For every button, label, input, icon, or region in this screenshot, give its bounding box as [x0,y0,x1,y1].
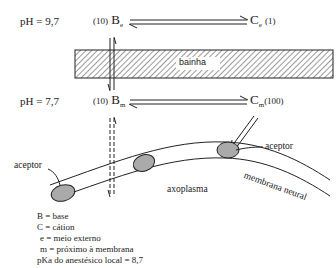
acceptor-left-label: aceptor [14,160,42,170]
cation-external-conc: (1) [265,16,276,26]
cation-membrane: Cm(100) [250,92,284,109]
base-membrane: (10) Bm [93,92,125,109]
base-external-symbol: B [111,12,120,27]
legend-item: m = próximo à membrana [37,244,143,255]
ph-membrane: pH = 7,7 [20,95,59,107]
cation-external-symbol: C [250,12,259,27]
axoplasm-label: axoplasma [167,184,208,194]
sheath-label: bainha [179,57,206,67]
base-external-conc: (10) [93,16,108,26]
acceptor-right [217,142,239,158]
legend-item: pKa do anestésico local = 8,7 [37,255,143,266]
base-membrane-symbol: B [111,92,120,107]
legend-item: B = base [37,211,143,222]
legend: B = base C = cátion e = meio externo m =… [37,211,143,266]
legend-item: e = meio externo [37,233,143,244]
cation-external-sub: e [259,21,262,29]
ph-external: pH = 9,7 [20,15,59,27]
acceptor-middle [131,152,157,175]
cation-external: Ce (1) [250,12,276,29]
cation-membrane-conc: (100) [264,96,284,106]
legend-item: C = cátion [37,222,143,233]
base-membrane-conc: (10) [93,96,108,106]
base-external: (10) Be [93,12,123,29]
base-external-sub: e [120,21,123,29]
base-membrane-sub: m [120,101,125,109]
acceptor-right-label: aceptor [265,141,293,151]
cation-membrane-symbol: C [250,92,259,107]
acceptor-left [49,182,76,204]
